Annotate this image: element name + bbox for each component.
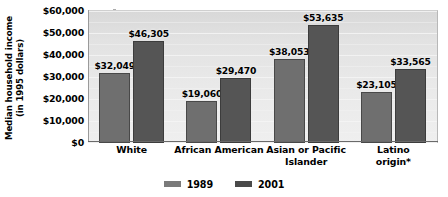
chart-legend: 19892001	[0, 174, 448, 194]
x-axis-label-line: Asian or Pacific	[266, 144, 346, 156]
bar-2001-latino-origin[interactable]	[395, 69, 426, 143]
bar-chart-figure: Median household income (in 1995 dollars…	[0, 0, 448, 197]
y-axis-tick-labels: $0$10,000$20,000$30,000$40,000$50,000$60…	[28, 10, 84, 142]
bar-1989-latino-origin[interactable]	[361, 92, 392, 143]
legend-item-2001[interactable]: 2001	[235, 179, 284, 190]
y-axis-tick-label: $10,000	[28, 115, 84, 126]
y-axis-tick-label: $30,000	[28, 71, 84, 82]
x-axis-label-african-american: African American	[174, 144, 263, 156]
bar-value-label: $19,060	[182, 88, 222, 99]
x-axis-category-labels: WhiteAfrican AmericanAsian or PacificIsl…	[88, 144, 438, 172]
legend-label: 1989	[187, 179, 213, 190]
bar-2001-white[interactable]	[133, 41, 164, 143]
bar-2001-african-american[interactable]	[220, 78, 251, 143]
legend-label: 2001	[258, 179, 284, 190]
x-axis-label-line: Latino origin*	[371, 144, 416, 167]
legend-swatch-icon	[164, 181, 181, 187]
x-axis-label-latino-origin: Latino origin*	[371, 144, 416, 167]
bar-value-label: $38,053	[269, 46, 309, 57]
bar-1989-asian-or-pacific-islander[interactable]	[274, 59, 305, 143]
y-axis-tick-label: $60,000	[28, 5, 84, 16]
x-axis-label-line: Islander	[266, 156, 346, 168]
bar-value-label: $53,635	[303, 12, 343, 23]
x-axis-label-line: White	[116, 144, 147, 156]
bar-value-label: $33,565	[390, 56, 430, 67]
x-axis-label-asian-or-pacific-islander: Asian or PacificIslander	[266, 144, 346, 167]
x-axis-baseline	[88, 141, 438, 142]
legend-swatch-icon	[235, 181, 252, 187]
y-axis-tick-label: $50,000	[28, 27, 84, 38]
bar-group: $19,060$29,470	[186, 11, 251, 143]
bar-group: $38,053$53,635	[274, 11, 339, 143]
bar-1989-white[interactable]	[99, 73, 130, 144]
bar-1989-african-american[interactable]	[186, 101, 217, 143]
bar-2001-asian-or-pacific-islander[interactable]	[308, 25, 339, 143]
bar-group: $23,105$33,565	[361, 11, 426, 143]
y-axis-title: Median household income (in 1995 dollars…	[0, 0, 30, 155]
bar-group: $32,049$46,305	[99, 11, 164, 143]
y-axis-tick-label: $40,000	[28, 49, 84, 60]
bar-value-label: $46,305	[128, 28, 168, 39]
x-axis-label-white: White	[116, 144, 147, 156]
y-axis-title-line1: Median household income	[4, 15, 15, 139]
plot-area: $32,049$46,305$19,060$29,470$38,053$53,6…	[88, 10, 438, 143]
y-axis-line	[88, 10, 89, 142]
y-axis-tick-label: $20,000	[28, 93, 84, 104]
y-axis-title-line2: (in 1995 dollars)	[15, 15, 26, 139]
bar-value-label: $29,470	[216, 65, 256, 76]
legend-item-1989[interactable]: 1989	[164, 179, 213, 190]
x-axis-label-line: African American	[174, 144, 263, 156]
bar-value-label: $23,105	[356, 79, 396, 90]
y-axis-tick-label: $0	[28, 137, 84, 148]
bar-value-label: $32,049	[94, 60, 134, 71]
